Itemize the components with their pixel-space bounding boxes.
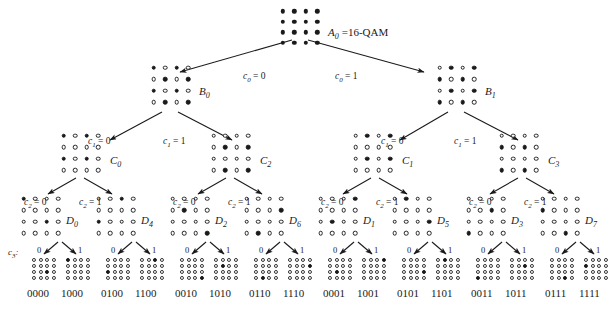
constellation-point [549,228,561,240]
constellation-point [276,193,288,205]
constellation-point [531,153,543,165]
constellation-point [486,228,498,240]
constellation-point [498,193,510,205]
constellation-point [421,275,428,281]
constellation-point [529,275,536,281]
constellation-point [496,165,508,177]
constellation-point [220,153,232,165]
constellation-point [327,228,339,240]
tree-edge-d1-to-e1 [358,242,372,254]
node-label-d4: D4 [141,215,153,229]
edge-label-c3-zero-4: 0 [333,246,337,255]
constellation-point [202,216,214,228]
tree-edge-c3-to-d3 [490,178,518,194]
constellation-point [312,38,324,49]
constellation-point [171,85,183,97]
leaf-bit-label-1001: 1001 [357,288,379,299]
constellation-leaf-1110 [287,257,313,281]
constellation-point [116,228,128,240]
constellation-point [362,153,374,165]
tree-edge-d5-to-e1 [432,242,446,254]
constellation-point [469,74,481,86]
tree-edge-d6-to-e1 [284,242,298,254]
constellation-point [53,228,65,240]
constellation-point [412,216,424,228]
constellation-point [289,17,301,28]
constellation-point [312,27,324,38]
constellation-point [148,62,160,74]
constellation-point [537,216,549,228]
constellation-point [385,153,397,165]
edge-label-value: = 1 [532,197,547,207]
constellation-point [105,193,117,205]
constellation-point [457,74,469,86]
edge-label-c2-zero-2: c2 = 0 [321,198,344,210]
tree-edge-d1-to-e0 [340,242,354,254]
edge-label-c3-one-0: 1 [78,246,82,255]
constellation-leaf-1000 [65,257,91,281]
constellation-point [424,193,436,205]
constellation-point [434,97,446,109]
constellation-point [160,85,172,97]
node-label-d6: D6 [289,215,301,229]
node-label-variable: D [511,214,519,226]
constellation-point [58,153,70,165]
edge-label-c2-one-0: c2 = 1 [79,198,102,210]
constellation-point [208,142,220,154]
constellation-point [362,165,374,177]
constellation-point [496,130,508,142]
constellation-point [231,153,243,165]
edge-label-c1-a-one: c1 = 1 [163,137,186,149]
constellation-point [70,130,82,142]
constellation-point [412,228,424,240]
tree-edge-d0-to-e1 [62,242,76,254]
constellation-point [385,165,397,177]
constellation-leaf-0100 [105,257,131,281]
edge-label-c2-zero-1: c2 = 0 [173,198,196,210]
constellation-point [350,205,362,217]
constellation-point [373,153,385,165]
node-label-variable: D [363,214,371,226]
leaf-bit-label-0011: 0011 [471,288,493,299]
edge-label-value: = 1 [87,197,102,207]
edge-label-c3-zero-7: 0 [555,246,559,255]
constellation-point [253,228,265,240]
tree-edge-d2-to-e0 [118,242,132,254]
constellation-point [190,216,202,228]
constellation-point [93,216,105,228]
constellation-point [469,97,481,109]
constellation-point [519,130,531,142]
node-label-d3: D3 [511,215,523,229]
constellation-point [508,130,520,142]
node-label-subscript: 6 [297,220,301,229]
constellation-point [220,142,232,154]
constellation-point [412,193,424,205]
edge-label-c3-one-2: 1 [226,246,230,255]
constellation-point [128,216,140,228]
node-label-d5: D5 [437,215,449,229]
constellation-point [167,216,179,228]
node-label-subscript: 7 [593,220,597,229]
constellation-point [277,6,289,17]
constellation-point [549,216,561,228]
tree-edge-d0-to-e0 [44,242,58,254]
constellation-point [572,216,584,228]
constellation-point [105,216,117,228]
tree-edge-c0-to-d0 [48,178,76,194]
constellation-point [220,165,232,177]
edge-label-value: = 0 [32,197,47,207]
node-label-subscript: 1 [371,220,375,229]
edge-label-c2-one-3: c2 = 1 [524,198,547,210]
edge-label-c3-one-4: 1 [374,246,378,255]
constellation-point [289,6,301,17]
edge-label-c1-b-one: c1 = 1 [454,137,477,149]
constellation-point [148,74,160,86]
edge-label-value: = 0 [389,136,404,146]
constellation-point [70,142,82,154]
constellation-leaf-0011 [475,257,501,281]
constellation-point [496,142,508,154]
node-label-d2: D2 [215,215,227,229]
c3-row-tag: c3: [8,248,19,260]
leaf-bit-label-1100: 1100 [135,288,157,299]
constellation-point [183,85,195,97]
